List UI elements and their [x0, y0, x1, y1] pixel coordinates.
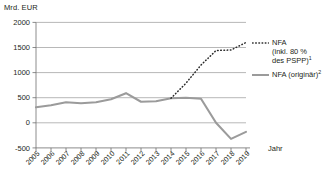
x-axis-title: Jahr — [268, 144, 283, 153]
x-tick-label: 2011 — [114, 149, 131, 166]
x-tick-label: 2018 — [219, 149, 237, 167]
y-tick-label: 500 — [17, 93, 30, 102]
y-tick-label: 0 — [26, 118, 30, 127]
legend-footnote-marker: 1 — [309, 55, 312, 61]
x-tick-label: 2015 — [174, 149, 192, 167]
y-tick-label: 2000 — [13, 18, 30, 27]
x-tick-label: 2013 — [144, 149, 162, 167]
x-tick-label: 2012 — [129, 149, 147, 167]
line-chart-plot: 2000 1500 1000 500 0 -500 — [0, 0, 335, 182]
y-axis-ticks — [33, 22, 37, 147]
x-axis-tick-labels: 2005 2006 2007 2008 2009 2010 2011 2012 … — [24, 149, 252, 167]
y-axis-tick-labels: 2000 1500 1000 500 0 -500 — [13, 18, 30, 153]
series-line-nfa-originaer — [36, 93, 246, 139]
x-tick-label: 2014 — [159, 149, 177, 167]
legend-label: NFA (inkl. 80 % des PSPP)1 — [272, 38, 312, 66]
x-tick-label: 2008 — [69, 149, 87, 167]
x-tick-label: 2007 — [54, 149, 72, 167]
chart-container: Mrd. EUR 2000 1500 1000 500 0 -500 — [0, 0, 335, 182]
legend-item-nfa-originaer: NFA (originär)2 — [252, 70, 335, 79]
chart-legend: NFA (inkl. 80 % des PSPP)1 NFA (originär… — [252, 38, 335, 83]
legend-label-text: NFA (inkl. 80 % des PSPP) — [272, 38, 309, 65]
series-line-nfa-inkl-pspp — [171, 42, 246, 98]
y-gridlines — [36, 22, 246, 122]
y-tick-label: -500 — [15, 144, 30, 153]
x-tick-label: 2019 — [234, 149, 252, 167]
x-tick-label: 2006 — [39, 149, 57, 167]
legend-label-text: NFA (originär) — [272, 70, 318, 79]
x-tick-label: 2009 — [84, 149, 102, 167]
solid-line-swatch — [252, 70, 269, 79]
x-tick-label: 2016 — [189, 149, 207, 167]
legend-item-nfa-inkl-pspp: NFA (inkl. 80 % des PSPP)1 — [252, 38, 335, 66]
y-tick-label: 1500 — [13, 43, 30, 52]
x-tick-label: 2017 — [204, 149, 222, 167]
dotted-line-swatch — [252, 38, 269, 47]
y-tick-label: 1000 — [13, 68, 30, 77]
legend-footnote-marker: 2 — [318, 68, 321, 74]
x-tick-label: 2010 — [99, 149, 117, 167]
legend-label: NFA (originär)2 — [272, 70, 321, 79]
